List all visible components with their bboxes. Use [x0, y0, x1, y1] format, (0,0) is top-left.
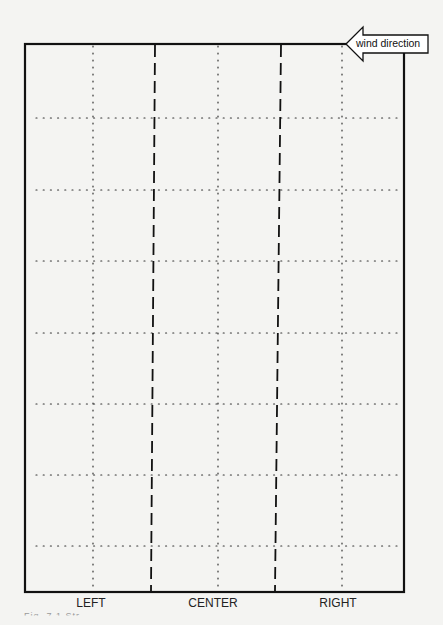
- diagram-frame: [25, 44, 404, 592]
- dashed-lane-dividers: [151, 45, 281, 591]
- dotted-horizontal-lines: [36, 118, 402, 546]
- lane-label-left: LEFT: [76, 596, 105, 610]
- lane-label-center: CENTER: [188, 596, 237, 610]
- wind-direction-label: wind direction: [356, 37, 420, 49]
- lane-grid-diagram: [0, 0, 443, 625]
- dotted-vertical-lines: [93, 46, 342, 590]
- lane-label-right: RIGHT: [319, 596, 356, 610]
